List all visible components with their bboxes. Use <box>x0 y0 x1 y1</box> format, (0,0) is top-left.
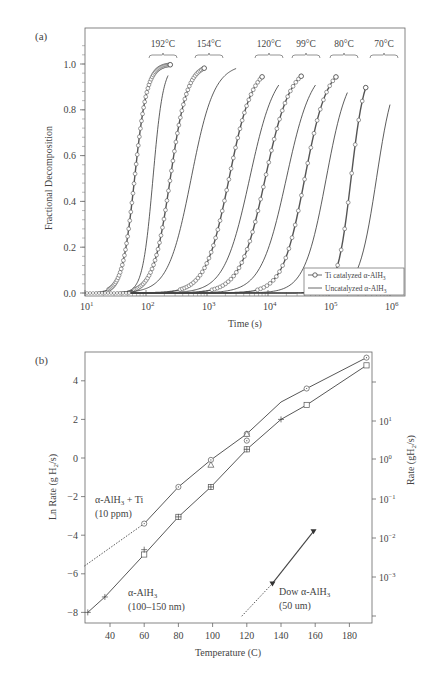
annotation-dow: Dow α-AlH3 <box>279 586 331 599</box>
y-tick-label: 4 <box>73 375 78 386</box>
data-marker <box>161 226 165 230</box>
data-marker <box>249 93 253 97</box>
curve <box>85 65 170 293</box>
data-marker <box>142 106 146 110</box>
data-marker <box>290 236 294 240</box>
data-marker <box>155 253 159 257</box>
data-marker <box>318 107 322 111</box>
data-marker <box>357 118 361 122</box>
data-marker <box>303 177 307 181</box>
annotation-dow-size: (50 um) <box>279 600 311 612</box>
square-marker <box>364 363 369 368</box>
data-marker <box>119 267 123 271</box>
right-tick-label: 101 <box>379 415 392 427</box>
panel-a-y-label: Fractional Decomposition <box>43 126 54 230</box>
legend-circle-icon <box>313 273 317 277</box>
data-marker <box>127 227 131 231</box>
data-marker <box>271 278 275 282</box>
data-marker <box>144 95 148 99</box>
data-marker <box>346 201 350 205</box>
temperature-label: 154°C <box>197 39 221 49</box>
panel-a-label: (a) <box>35 30 48 43</box>
series-line <box>272 531 313 583</box>
data-marker <box>278 117 282 121</box>
brace-icon <box>330 53 358 58</box>
data-marker <box>331 79 335 83</box>
x-tick-label: 105 <box>324 300 338 312</box>
legend-uncatalyzed-label: Uncatalyzed α-AlH3 <box>325 284 387 294</box>
curve <box>85 93 347 293</box>
data-marker <box>343 227 347 231</box>
data-marker <box>312 131 316 135</box>
data-marker <box>162 217 166 221</box>
y-tick-label: 0.4 <box>64 196 77 207</box>
temperature-label: 80°C <box>334 39 354 49</box>
x-tick-label: 120 <box>239 630 254 641</box>
data-marker <box>261 185 265 189</box>
filled-triangle-marker <box>269 581 275 586</box>
data-marker <box>170 169 174 173</box>
data-marker <box>214 236 218 240</box>
data-marker <box>254 84 258 88</box>
panel-b-y-axis: 420−2−4−6−8 <box>67 375 85 618</box>
data-marker <box>251 88 255 92</box>
data-marker <box>164 208 168 212</box>
data-marker <box>124 248 128 252</box>
temperature-label: 192°C <box>151 39 175 49</box>
rate-series <box>84 355 369 616</box>
data-marker <box>207 256 211 260</box>
data-marker <box>251 230 255 234</box>
panel-b-frame <box>85 352 372 623</box>
data-marker <box>280 109 284 113</box>
square-marker <box>304 402 309 407</box>
y-tick-label: −8 <box>67 607 78 618</box>
right-tick-label: 10−2 <box>379 532 395 544</box>
data-marker <box>145 90 149 94</box>
x-tick-label: 106 <box>385 300 399 312</box>
data-marker <box>156 247 160 251</box>
data-marker <box>225 188 229 192</box>
data-marker <box>264 173 268 177</box>
data-marker <box>283 101 287 105</box>
panel-a: (a) 0.00.20.40.60.81.0 10110210310410510… <box>35 28 405 330</box>
x-tick-label: 103 <box>202 300 216 312</box>
data-marker <box>173 149 177 153</box>
data-marker <box>216 228 220 232</box>
data-marker <box>183 97 187 101</box>
temperature-annotations: 192°C154°C120°C99°C80°C70°C <box>149 39 398 58</box>
data-marker <box>300 193 304 197</box>
temperature-label: 99°C <box>296 39 316 49</box>
data-marker <box>288 89 292 93</box>
data-marker <box>268 281 272 285</box>
data-marker <box>253 220 257 224</box>
y-tick-label: 0.0 <box>64 288 77 299</box>
data-marker <box>256 209 260 213</box>
data-marker <box>237 266 241 270</box>
x-tick-label: 60 <box>139 630 149 641</box>
data-marker <box>141 112 145 116</box>
data-marker <box>274 275 278 279</box>
data-marker <box>315 119 319 123</box>
panel-a-legend: Ti catalyzed α-AlH3 Uncatalyzed α-AlH3 <box>304 268 404 295</box>
temperature-label: 120°C <box>257 39 281 49</box>
data-marker <box>158 241 162 245</box>
data-marker <box>336 263 340 267</box>
decomposition-curves <box>85 62 390 294</box>
data-marker <box>126 234 130 238</box>
data-marker <box>259 197 263 201</box>
data-marker <box>231 156 235 160</box>
x-tick-label: 100 <box>205 630 220 641</box>
data-marker <box>131 191 135 195</box>
panel-b-right-axis: 10110010−110−210−3 <box>372 382 395 616</box>
data-marker <box>123 253 127 257</box>
data-marker <box>167 189 171 193</box>
data-marker <box>294 80 298 84</box>
data-marker <box>287 247 291 251</box>
data-marker <box>272 137 276 141</box>
data-marker <box>140 119 144 123</box>
data-marker <box>203 266 207 270</box>
data-marker <box>186 88 190 92</box>
curve <box>85 69 236 293</box>
data-marker <box>136 144 140 148</box>
panel-a-y-axis: 0.00.20.40.60.81.0 <box>64 46 86 299</box>
